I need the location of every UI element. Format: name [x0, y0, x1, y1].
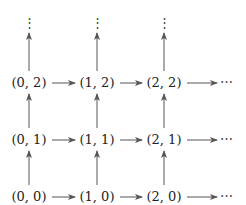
ellipsis-right-row-0: ⋯ [220, 188, 233, 203]
node-0-1: (0, 1) [12, 132, 47, 147]
ellipsis-up-col-1: ⋮ [91, 15, 104, 30]
lattice-diagram: (0, 0)(1, 0)(2, 0)(0, 1)(1, 1)(2, 1)(0, … [0, 0, 246, 205]
node-2-1: (2, 1) [147, 132, 182, 147]
node-2-0: (2, 0) [147, 189, 182, 204]
node-0-2: (0, 2) [12, 75, 47, 90]
ellipsis-right-row-1: ⋯ [220, 131, 233, 146]
node-1-1: (1, 1) [80, 132, 115, 147]
node-1-0: (1, 0) [80, 189, 115, 204]
node-1-2: (1, 2) [80, 75, 115, 90]
node-2-2: (2, 2) [147, 75, 182, 90]
node-0-0: (0, 0) [12, 189, 47, 204]
ellipsis-up-col-2: ⋮ [158, 15, 171, 30]
ellipsis-up-col-0: ⋮ [23, 15, 36, 30]
ellipsis-right-row-2: ⋯ [220, 74, 233, 89]
